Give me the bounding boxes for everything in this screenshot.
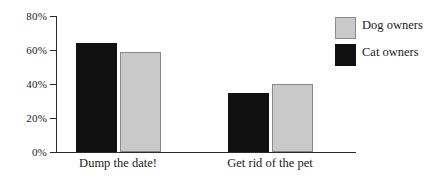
legend-label-dog-owners: Dog owners [362, 18, 423, 33]
bar-cat-2 [228, 93, 269, 153]
legend-item-cat-owners: Cat owners [335, 41, 439, 68]
legend-swatch-cat-owners [335, 44, 356, 66]
y-axis-tick [50, 16, 56, 17]
y-axis-tick-label: 60% [26, 44, 47, 56]
legend-item-dog-owners: Dog owners [335, 14, 439, 41]
y-axis-tick [50, 152, 56, 153]
bar-cat-1 [76, 43, 117, 152]
bar-dog-1 [120, 52, 161, 152]
bar-chart: 80%60%40%20%0% Dump the date!Get rid of … [0, 0, 439, 188]
legend-label-cat-owners: Cat owners [362, 45, 419, 60]
y-axis-tick-label: 20% [26, 112, 47, 124]
y-axis-tick [50, 118, 56, 119]
x-axis-line [56, 152, 356, 153]
bar-dog-2 [272, 84, 313, 152]
y-axis-tick-label: 40% [26, 78, 47, 90]
legend-swatch-dog-owners [335, 17, 356, 39]
x-axis-category-label: Get rid of the pet [180, 156, 360, 171]
chart-legend: Dog owners Cat owners [335, 14, 439, 68]
y-axis-line [56, 16, 57, 153]
y-axis-tick [50, 84, 56, 85]
y-axis-tick-label: 80% [26, 10, 47, 22]
y-axis-tick [50, 50, 56, 51]
